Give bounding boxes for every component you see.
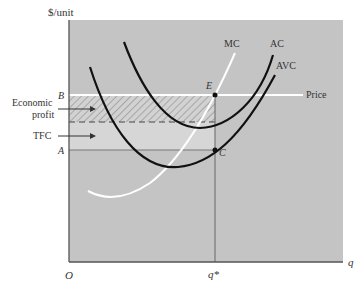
e-label: E — [205, 80, 212, 91]
economic-profit-label-line1: Economic — [12, 97, 53, 108]
a-label: A — [57, 145, 65, 156]
c-label: C — [219, 147, 226, 158]
x-axis-label: q — [348, 256, 354, 268]
avc-label: AVC — [276, 60, 296, 71]
point-e — [213, 93, 218, 98]
economic-profit-label-line2: profit — [32, 109, 54, 120]
tfc-label: TFC — [33, 130, 52, 141]
b-label: B — [58, 90, 64, 101]
ac-label: AC — [270, 38, 284, 49]
cost-curves-diagram: $/unit O q q* Price B A E C MC AC AVC Ec… — [0, 0, 364, 290]
origin-label: O — [65, 269, 73, 281]
y-axis-label: $/unit — [48, 6, 74, 18]
mc-label: MC — [224, 38, 240, 49]
price-label: Price — [306, 89, 327, 100]
point-c — [213, 148, 218, 153]
q-star-label: q* — [208, 268, 220, 280]
